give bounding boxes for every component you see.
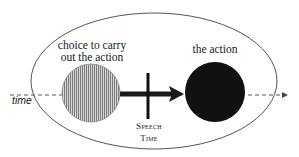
choice-circle <box>62 64 120 122</box>
choice-label-line2: out the action <box>61 51 124 63</box>
diagram-canvas: choice to carry out the action the actio… <box>0 0 299 157</box>
speech-time-label-line2: Time <box>140 133 158 143</box>
timeline-arrowhead-icon <box>282 92 288 98</box>
timeline-label: time <box>12 94 32 106</box>
speech-time-label-line1: Speech <box>136 121 162 131</box>
speech-time-marker <box>147 73 150 119</box>
action-circle <box>185 62 245 122</box>
choice-to-action-arrow <box>120 86 184 102</box>
action-label: the action <box>192 43 237 55</box>
